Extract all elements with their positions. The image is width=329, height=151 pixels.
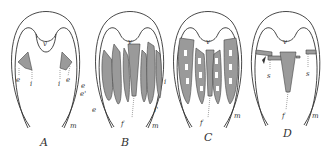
label-f: f	[281, 112, 286, 120]
label-e: e	[92, 106, 96, 114]
label-v: v	[43, 40, 47, 48]
caption-d: D	[282, 127, 292, 140]
label-m: m	[152, 122, 159, 130]
panel-a: v e i i e e m A	[12, 12, 86, 150]
label-f: f	[120, 120, 125, 128]
panel-d: v s s f m D	[251, 12, 320, 141]
label-i: i	[164, 78, 166, 86]
caption-c: C	[204, 131, 213, 144]
label-v: v	[206, 38, 210, 46]
label-f: f	[199, 119, 204, 127]
label-e: e	[16, 76, 20, 84]
label-e: e	[66, 76, 70, 84]
label-e: e	[81, 82, 85, 90]
panel-b: v e' e f i i' m B	[80, 12, 166, 150]
label-e-prime: e'	[80, 90, 86, 98]
label-m: m	[70, 122, 77, 130]
label-v: v	[283, 38, 287, 46]
caption-b: B	[120, 136, 129, 149]
label-i: i	[30, 80, 32, 88]
label-i-prime: i'	[154, 106, 158, 114]
label-m: m	[312, 112, 319, 120]
label-m: m	[234, 112, 241, 120]
label-s: s	[306, 70, 310, 78]
caption-a: A	[39, 136, 48, 149]
label-i: i	[58, 80, 60, 88]
label-s: s	[267, 72, 271, 80]
figure-panels: v e i i e e m A v e' e f i i' m B	[0, 0, 329, 151]
panel-c: v f m C	[174, 12, 242, 145]
label-v: v	[128, 38, 132, 46]
